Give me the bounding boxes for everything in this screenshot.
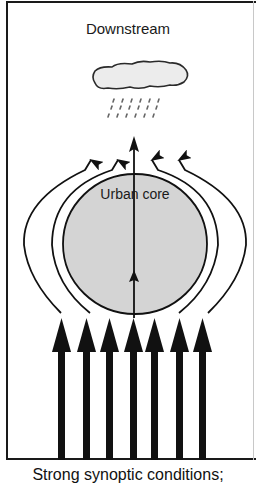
- upstream-arrow: [170, 318, 189, 460]
- rain-cloud-icon: [93, 61, 188, 89]
- upstream-arrow: [193, 318, 212, 460]
- rain-drops: [108, 99, 159, 117]
- upstream-arrow: [100, 318, 119, 460]
- upstream-arrow: [145, 318, 164, 460]
- upstream-wind-arrows: [52, 318, 212, 460]
- upstream-arrow: [52, 318, 71, 460]
- urban-core-label: Urban core: [90, 186, 180, 202]
- urban-flow-diagram: [0, 0, 256, 493]
- upstream-arrow: [124, 318, 143, 460]
- upstream-arrow: [77, 318, 96, 460]
- caption: Strong synoptic conditions;: [0, 466, 256, 484]
